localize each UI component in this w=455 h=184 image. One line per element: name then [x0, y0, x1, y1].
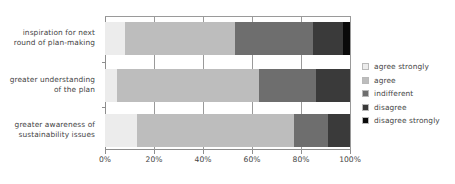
legend-item-agree[interactable]: agree [362, 74, 455, 88]
stacked-bar-chart: inspiration for next round of plan-makin… [0, 0, 455, 184]
legend-swatch-icon [362, 63, 369, 70]
legend-item-disagree-strongly[interactable]: disagree strongly [362, 114, 455, 128]
legend-label: agree strongly [374, 62, 429, 71]
legend-label: indifferent [374, 89, 413, 98]
bar-segment [313, 22, 342, 55]
category-label-line: round of plan-making [0, 38, 95, 48]
x-tick-80 [301, 150, 302, 154]
bar-segment [328, 114, 350, 147]
category-label-awareness: greater awareness of sustainability issu… [0, 120, 95, 139]
x-tick-label: 20% [146, 155, 163, 164]
bar-segment [125, 22, 235, 55]
legend: agree stronglyagreeindifferentdisagreedi… [362, 60, 455, 128]
legend-label: agree [374, 76, 396, 85]
legend-item-indifferent[interactable]: indifferent [362, 87, 455, 101]
bar-segment [235, 22, 313, 55]
bar-segment [105, 114, 137, 147]
category-tick-0 [102, 62, 105, 63]
legend-swatch-icon [362, 117, 369, 124]
x-tick-label: 100% [339, 155, 361, 164]
table-row [105, 22, 350, 55]
legend-swatch-icon [362, 90, 369, 97]
x-tick-label: 40% [195, 155, 212, 164]
table-row [105, 69, 350, 102]
legend-swatch-icon [362, 77, 369, 84]
category-label-inspiration: inspiration for next round of plan-makin… [0, 28, 95, 47]
legend-item-agree-strongly[interactable]: agree strongly [362, 60, 455, 74]
bar-segment [137, 114, 294, 147]
legend-label: disagree [374, 103, 407, 112]
category-tick-1 [102, 107, 105, 108]
category-label-line: inspiration for next [0, 28, 95, 38]
bar-segment [259, 69, 315, 102]
x-tick-100 [350, 150, 351, 154]
legend-label: disagree strongly [374, 116, 440, 125]
bar-segment [343, 22, 350, 55]
category-label-line: sustainability issues [0, 130, 95, 140]
x-tick-label: 60% [244, 155, 261, 164]
x-tick-60 [252, 150, 253, 154]
bar-segment [117, 69, 259, 102]
bar-segment [294, 114, 328, 147]
plot-top-border [105, 16, 350, 17]
legend-item-disagree[interactable]: disagree [362, 101, 455, 115]
plot-area [105, 16, 350, 150]
x-tick-40 [203, 150, 204, 154]
x-tick-label: 80% [293, 155, 310, 164]
category-label-understanding: greater understanding of the plan [0, 75, 95, 94]
category-axis-labels: inspiration for next round of plan-makin… [0, 16, 101, 150]
bar-segment [316, 69, 350, 102]
table-row [105, 114, 350, 147]
category-label-line: of the plan [0, 85, 95, 95]
x-tick-20 [154, 150, 155, 154]
x-tick-0 [105, 150, 106, 154]
bar-segment [105, 22, 125, 55]
bar-segment [105, 69, 117, 102]
legend-swatch-icon [362, 104, 369, 111]
x-tick-label: 0% [99, 155, 111, 164]
category-label-line: greater awareness of [0, 120, 95, 130]
category-label-line: greater understanding [0, 75, 95, 85]
x-axis: 0%20%40%60%80%100% [105, 150, 350, 156]
